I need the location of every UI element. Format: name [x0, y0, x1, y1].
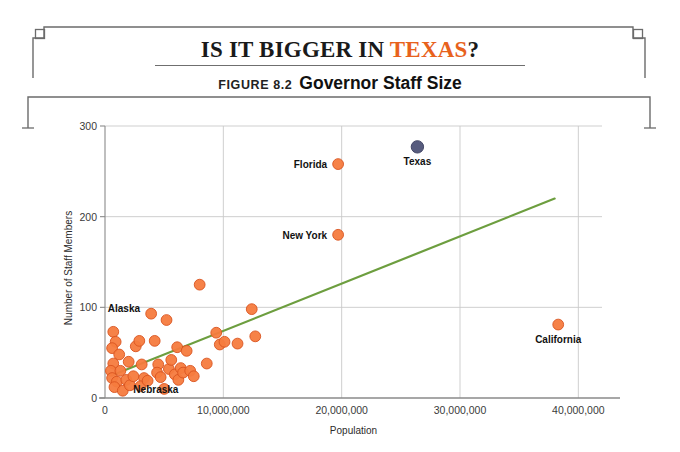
y-axis-ticks: 0100200300 [79, 120, 105, 404]
x-axis-title: Population [330, 425, 377, 436]
x-tick-label: 20,000,000 [315, 404, 368, 416]
scatter-chart: 0100200300010,000,00020,000,00030,000,00… [0, 0, 680, 452]
annotation-alaska: Alaska [108, 303, 141, 314]
data-point[interactable] [211, 327, 222, 338]
data-point[interactable] [219, 336, 230, 347]
gridlines [105, 126, 602, 398]
data-point[interactable] [166, 355, 177, 366]
data-point[interactable] [250, 331, 261, 342]
annotation-nebraska: Nebraska [133, 384, 178, 395]
data-point[interactable] [149, 335, 160, 346]
data-point[interactable] [232, 338, 243, 349]
data-point[interactable] [134, 335, 145, 346]
x-tick-label: 40,000,000 [552, 404, 605, 416]
data-point[interactable] [553, 319, 564, 330]
x-axis-ticks: 010,000,00020,000,00030,000,00040,000,00… [102, 404, 605, 416]
data-point[interactable] [155, 372, 166, 383]
y-tick-label: 200 [79, 211, 97, 223]
data-point[interactable] [181, 345, 192, 356]
data-point-texas[interactable] [411, 141, 423, 153]
data-point[interactable] [333, 229, 344, 240]
x-tick-label: 0 [102, 404, 108, 416]
data-point[interactable] [146, 308, 157, 319]
point-label-florida: Florida [294, 159, 328, 170]
y-axis-title: Number of Staff Members [63, 211, 74, 325]
x-tick-label: 30,000,000 [434, 404, 487, 416]
y-tick-label: 300 [79, 120, 97, 132]
data-point[interactable] [108, 326, 119, 337]
point-labels: FloridaNew YorkCaliforniaTexasAlaskaNebr… [108, 156, 582, 396]
data-point[interactable] [194, 279, 205, 290]
chart-plot-area: 0100200300010,000,00020,000,00030,000,00… [0, 0, 680, 452]
data-point[interactable] [136, 359, 147, 370]
data-point[interactable] [188, 371, 199, 382]
point-label-california: California [535, 334, 582, 345]
y-tick-label: 100 [79, 301, 97, 313]
data-point[interactable] [201, 358, 212, 369]
data-point[interactable] [128, 371, 139, 382]
y-tick-label: 0 [91, 392, 97, 404]
point-label-new-york: New York [282, 230, 327, 241]
data-points [106, 141, 564, 396]
point-label-texas: Texas [404, 156, 432, 167]
data-point[interactable] [246, 304, 257, 315]
data-point[interactable] [161, 315, 172, 326]
data-point[interactable] [333, 159, 344, 170]
x-tick-label: 10,000,000 [197, 404, 250, 416]
data-point[interactable] [123, 356, 134, 367]
figure-root: IS IT BIGGER IN TEXAS? FIGURE 8.2Governo… [0, 0, 680, 452]
